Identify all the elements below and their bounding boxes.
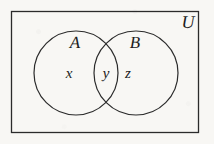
region-label-z: z — [125, 67, 131, 82]
set-a-label: A — [70, 34, 80, 51]
universe-label: U — [182, 13, 195, 31]
region-label-x: x — [66, 67, 73, 82]
set-b-label: B — [130, 34, 140, 51]
venn-diagram-figure: U A B x y z — [0, 0, 214, 144]
region-label-y: y — [103, 67, 110, 82]
